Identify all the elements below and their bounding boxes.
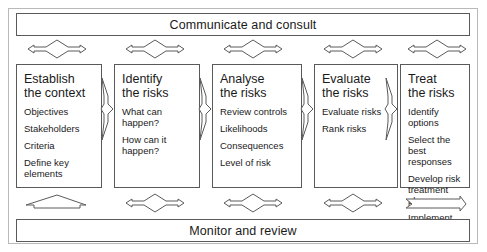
stage-item: What can happen? xyxy=(122,106,193,128)
stage-item: Consequences xyxy=(220,140,295,151)
stage-item: Rank risks xyxy=(322,123,391,134)
stage-box-establish-the-context: Establish the context Objectives Stakeho… xyxy=(16,64,102,188)
stage-item: Select the best responses xyxy=(408,134,463,167)
stage-title: Analyse the risks xyxy=(220,72,295,100)
arrow-right-icon xyxy=(196,76,214,142)
double-arrow-vertical-icon xyxy=(220,38,286,60)
stage-box-identify-the-risks: Identify the risks What can happen? How … xyxy=(114,64,200,188)
stage-item: Review controls xyxy=(220,106,295,117)
stage-box-analyse-the-risks: Analyse the risks Review controls Likeli… xyxy=(212,64,302,188)
stage-item: Stakeholders xyxy=(24,123,95,134)
stage-item: Identify options xyxy=(408,106,463,128)
communicate-and-consult-label: Communicate and consult xyxy=(170,18,317,32)
double-arrow-vertical-icon xyxy=(320,192,386,214)
double-arrow-vertical-icon xyxy=(122,38,188,60)
stage-title: Evaluate the risks xyxy=(322,72,391,100)
stage-item: Likelihoods xyxy=(220,123,295,134)
stage-item: How can it happen? xyxy=(122,134,193,156)
monitor-and-review-label: Monitor and review xyxy=(189,224,296,238)
stage-box-treat-the-risks: Treat the risks Identify options Select … xyxy=(400,64,470,188)
stage-title: Identify the risks xyxy=(122,72,193,100)
double-arrow-vertical-icon xyxy=(220,192,286,214)
stage-title: Establish the context xyxy=(24,72,95,100)
double-arrow-vertical-icon xyxy=(404,38,470,60)
double-arrow-vertical-icon xyxy=(404,192,470,214)
stage-item: Define key elements xyxy=(24,157,95,179)
risk-management-process-diagram: Communicate and consult Establish the co… xyxy=(0,0,487,252)
stage-item: Evaluate risks xyxy=(322,106,391,117)
stage-item: Criteria xyxy=(24,140,95,151)
double-arrow-vertical-icon xyxy=(122,192,188,214)
double-arrow-vertical-icon xyxy=(320,38,386,60)
stage-title: Treat the risks xyxy=(408,72,463,100)
double-arrow-vertical-icon xyxy=(24,38,90,60)
stage-item: Objectives xyxy=(24,106,95,117)
arrow-right-icon xyxy=(382,76,400,142)
monitor-and-review-banner: Monitor and review xyxy=(16,219,470,242)
double-arrow-vertical-icon xyxy=(24,192,90,214)
communicate-and-consult-banner: Communicate and consult xyxy=(16,13,470,36)
arrow-right-icon xyxy=(298,76,316,142)
arrow-right-icon xyxy=(98,76,116,142)
stage-item: Level of risk xyxy=(220,157,295,168)
